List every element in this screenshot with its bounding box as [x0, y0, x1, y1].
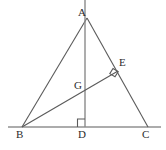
segment-BE [22, 71, 118, 127]
vertex-label-A: A [78, 7, 86, 18]
vertex-label-G: G [74, 80, 82, 91]
geometry-figure: A B C D E G [0, 0, 166, 150]
vertex-label-B: B [16, 129, 23, 140]
segment-AB [22, 18, 87, 127]
vertex-label-E: E [119, 57, 126, 68]
vertex-label-C: C [142, 129, 149, 140]
right-angle-mark-at-D [78, 119, 86, 127]
vertex-label-D: D [78, 129, 86, 140]
